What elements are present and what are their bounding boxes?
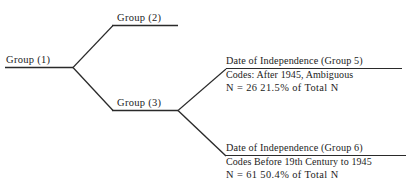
node-group-2-label: Group (2) xyxy=(117,12,161,23)
node-group-3-label: Group (3) xyxy=(117,97,161,108)
leaf-group-6-codes: Codes Before 19th Century to 1945 xyxy=(226,156,406,169)
node-group-2: Group (2) xyxy=(117,12,161,23)
leaf-node-group-6: Date of Independence (Group 6) Codes Bef… xyxy=(226,142,406,181)
node-group-1-label: Group (1) xyxy=(6,54,50,65)
leaf-group-6-stats: N = 61 50.4% of Total N xyxy=(226,169,406,182)
leaf-node-group-5: Date of Independence (Group 5) Codes: Af… xyxy=(226,55,402,94)
tree-diagram-figure: Group (1) Group (2) Group (3) Date of In… xyxy=(0,0,413,191)
leaf-group-6-title: Date of Independence (Group 6) xyxy=(226,142,406,155)
node-group-1: Group (1) xyxy=(6,54,50,65)
node-group-3: Group (3) xyxy=(117,97,161,108)
leaf-group-5-title: Date of Independence (Group 5) xyxy=(226,55,402,68)
leaf-group-5-codes: Codes: After 1945, Ambiguous xyxy=(226,69,402,82)
leaf-group-5-stats: N = 26 21.5% of Total N xyxy=(226,82,402,95)
